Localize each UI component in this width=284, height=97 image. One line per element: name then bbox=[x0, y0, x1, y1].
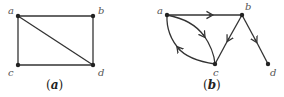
node-label-c: c bbox=[213, 67, 219, 78]
node-label-b: b bbox=[98, 5, 104, 16]
edge-b-d bbox=[242, 15, 256, 41]
node-c bbox=[213, 62, 217, 66]
node-b bbox=[240, 13, 244, 17]
node-a bbox=[16, 14, 20, 18]
node-label-c: c bbox=[8, 67, 14, 78]
node-d bbox=[91, 63, 95, 67]
edge-a-d bbox=[18, 16, 93, 65]
edge-b-c bbox=[228, 15, 242, 40]
caption-b: (b) bbox=[203, 78, 221, 92]
node-b bbox=[91, 14, 95, 18]
diagram-canvas: a b c d (a) a b c d (b) bbox=[0, 0, 284, 97]
node-label-d: d bbox=[98, 67, 104, 78]
edge-c-a bbox=[178, 48, 215, 64]
edge-a-c bbox=[167, 15, 204, 36]
node-label-b: b bbox=[245, 1, 251, 12]
node-label-a: a bbox=[157, 5, 163, 16]
node-a bbox=[165, 13, 169, 17]
node-label-d: d bbox=[270, 67, 276, 78]
caption-a: (a) bbox=[46, 78, 63, 92]
node-label-a: a bbox=[8, 5, 14, 16]
graph-a: a b c d (a) bbox=[8, 5, 104, 92]
node-c bbox=[16, 63, 20, 67]
graph-b: a b c d (b) bbox=[157, 1, 276, 92]
node-d bbox=[266, 62, 270, 66]
